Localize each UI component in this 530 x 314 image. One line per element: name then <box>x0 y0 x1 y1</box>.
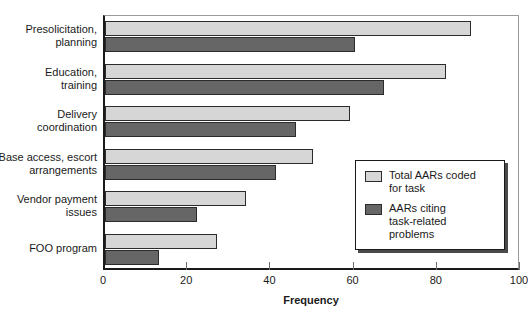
bar-problem-aars <box>105 37 355 52</box>
legend-label: AARs citingtask-relatedproblems <box>389 202 446 241</box>
bar-total-aars <box>105 234 217 249</box>
x-axis-tick-label: 100 <box>510 274 528 286</box>
bar-problem-aars <box>105 207 197 222</box>
bar-total-aars <box>105 106 350 121</box>
y-axis-tick-label: FOO program <box>0 242 97 255</box>
x-axis-tick <box>436 262 437 270</box>
x-axis: Frequency 020406080100 <box>103 270 519 314</box>
y-axis-tick-label: Education,training <box>0 66 97 92</box>
bar-chart: Presolicitation,planningEducation,traini… <box>0 0 530 314</box>
chart-legend: Total AARs codedfor taskAARs citingtask-… <box>355 160 505 250</box>
legend-swatch-total-icon <box>365 171 382 182</box>
x-axis-tick-label: 40 <box>263 274 275 286</box>
x-axis-tick-label: 0 <box>100 274 106 286</box>
x-axis-tick <box>186 262 187 270</box>
x-axis-tick-label: 20 <box>180 274 192 286</box>
y-axis-tick-label: Presolicitation,planning <box>0 23 97 49</box>
legend-item: AARs citingtask-relatedproblems <box>365 202 496 241</box>
bar-group <box>105 101 518 144</box>
bar-problem-aars <box>105 80 384 95</box>
bar-total-aars <box>105 149 313 164</box>
y-axis-tick-label: Base access, escortarrangements <box>0 151 97 177</box>
y-axis-labels: Presolicitation,planningEducation,traini… <box>0 15 97 270</box>
bar-total-aars <box>105 64 446 79</box>
legend-swatch-problems-icon <box>365 204 382 215</box>
legend-item: Total AARs codedfor task <box>365 169 496 195</box>
bar-group <box>105 59 518 102</box>
bar-group <box>105 16 518 59</box>
x-axis-tick-label: 80 <box>430 274 442 286</box>
bar-total-aars <box>105 21 471 36</box>
y-axis-tick-label: Vendor paymentissues <box>0 193 97 219</box>
legend-label: Total AARs codedfor task <box>389 169 476 195</box>
x-axis-tick <box>519 262 520 270</box>
x-axis-tick <box>353 262 354 270</box>
bar-total-aars <box>105 191 246 206</box>
x-axis-tick-label: 60 <box>346 274 358 286</box>
x-axis-tick <box>269 262 270 270</box>
bar-problem-aars <box>105 122 296 137</box>
bar-problem-aars <box>105 250 159 265</box>
bar-problem-aars <box>105 165 276 180</box>
y-axis-tick-label: Deliverycoordination <box>0 108 97 134</box>
x-axis-title: Frequency <box>103 294 519 306</box>
